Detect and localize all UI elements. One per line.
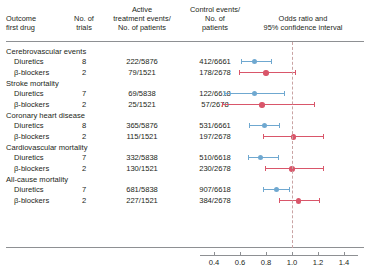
ci-upper-cap bbox=[279, 123, 280, 128]
column-header-active-line1: Active bbox=[100, 5, 184, 14]
forest-plot: Outcome first drug No. of trials Active … bbox=[0, 0, 369, 279]
ci-upper-cap bbox=[289, 187, 290, 192]
row-active-events: 227/1521 bbox=[100, 196, 184, 205]
column-header-trials-line2: trials bbox=[66, 23, 102, 32]
row-trials: 7 bbox=[66, 185, 102, 194]
row-drug: β-blockers bbox=[14, 196, 49, 205]
ci-upper-cap bbox=[323, 166, 324, 171]
row-active-events: 79/1521 bbox=[100, 68, 184, 77]
odds-ratio-marker bbox=[252, 91, 257, 96]
ci-lower-cap bbox=[222, 102, 223, 107]
x-axis-tick bbox=[266, 252, 267, 255]
row-drug: β-blockers bbox=[14, 164, 49, 173]
row-control-events: 384/2678 bbox=[184, 196, 246, 205]
row-drug: β-blockers bbox=[14, 132, 49, 141]
group-label: All-cause mortality bbox=[6, 175, 68, 184]
null-reference-line bbox=[292, 42, 293, 248]
x-axis-tick-label: 1.4 bbox=[333, 258, 355, 267]
row-control-events: 230/2678 bbox=[184, 164, 246, 173]
row-drug: Diuretics bbox=[14, 89, 44, 98]
row-control-events: 178/2678 bbox=[184, 68, 246, 77]
column-header-outcome-line1: Outcome bbox=[6, 14, 66, 23]
column-header-trials-line1: No. of bbox=[66, 14, 102, 23]
x-axis-tick bbox=[344, 252, 345, 255]
row-trials: 7 bbox=[66, 153, 102, 162]
row-drug: Diuretics bbox=[14, 57, 44, 66]
row-active-events: 681/5838 bbox=[100, 185, 184, 194]
group-label: Stroke mortality bbox=[6, 79, 59, 88]
column-header-active: Active treatment events/ No. of patients bbox=[100, 5, 184, 33]
row-drug: β-blockers bbox=[14, 100, 49, 109]
row-active-events: 69/5838 bbox=[100, 89, 184, 98]
x-axis-tick bbox=[214, 252, 215, 255]
row-control-events: 412/6661 bbox=[184, 57, 246, 66]
row-control-events: 510/6618 bbox=[184, 153, 246, 162]
ci-upper-cap bbox=[319, 198, 320, 203]
footer-rule bbox=[6, 247, 364, 248]
ci-lower-cap bbox=[239, 70, 240, 75]
column-header-control-line1: Control events/ bbox=[184, 5, 246, 14]
x-axis-tick-label: 0.6 bbox=[229, 258, 251, 267]
row-trials: 8 bbox=[66, 121, 102, 130]
row-trials: 7 bbox=[66, 89, 102, 98]
ci-lower-cap bbox=[265, 166, 266, 171]
x-axis-tick-label: 0.4 bbox=[203, 258, 225, 267]
ci-lower-cap bbox=[263, 187, 264, 192]
column-header-odds-ratio: Odds ratio and 95% confidence interval bbox=[240, 14, 366, 32]
x-axis-tick bbox=[318, 252, 319, 255]
x-axis-tick-label: 1.2 bbox=[307, 258, 329, 267]
column-header-active-line3: No. of patients bbox=[100, 23, 184, 32]
group-label: Cardiovascular mortality bbox=[6, 143, 87, 152]
odds-ratio-marker bbox=[262, 123, 267, 128]
row-active-events: 115/1521 bbox=[100, 132, 184, 141]
odds-ratio-marker bbox=[252, 59, 257, 64]
x-axis-tick-label: 0.8 bbox=[255, 258, 277, 267]
row-active-events: 222/5876 bbox=[100, 57, 184, 66]
column-header-control-line3: patients bbox=[184, 23, 246, 32]
row-trials: 2 bbox=[66, 196, 102, 205]
ci-lower-cap bbox=[224, 91, 225, 96]
column-header-or-line2: 95% confidence interval bbox=[240, 23, 366, 32]
column-header-or-line1: Odds ratio and bbox=[240, 14, 366, 23]
row-trials: 2 bbox=[66, 164, 102, 173]
column-header-outcome: Outcome first drug bbox=[6, 14, 66, 32]
row-trials: 2 bbox=[66, 68, 102, 77]
header-rule bbox=[6, 41, 364, 42]
ci-lower-cap bbox=[248, 155, 249, 160]
odds-ratio-marker bbox=[258, 155, 263, 160]
odds-ratio-marker bbox=[259, 102, 264, 107]
row-trials: 8 bbox=[66, 57, 102, 66]
row-drug: β-blockers bbox=[14, 68, 49, 77]
row-active-events: 365/5876 bbox=[100, 121, 184, 130]
x-axis-line bbox=[200, 255, 358, 256]
ci-upper-cap bbox=[271, 59, 272, 64]
row-drug: Diuretics bbox=[14, 153, 44, 162]
x-axis-tick-label: 1.0 bbox=[281, 258, 303, 267]
row-drug: Diuretics bbox=[14, 121, 44, 130]
odds-ratio-marker bbox=[274, 187, 279, 192]
column-header-trials: No. of trials bbox=[66, 14, 102, 32]
column-header-active-line2: treatment events/ bbox=[100, 14, 184, 23]
ci-upper-cap bbox=[278, 155, 279, 160]
column-header-control: Control events/ No. of patients bbox=[184, 5, 246, 33]
row-trials: 2 bbox=[66, 100, 102, 109]
confidence-interval-line bbox=[222, 104, 314, 105]
group-label: Cerebrovascular events bbox=[6, 47, 86, 56]
ci-upper-cap bbox=[284, 91, 285, 96]
row-control-events: 531/6661 bbox=[184, 121, 246, 130]
column-header-control-line2: No. of bbox=[184, 14, 246, 23]
odds-ratio-marker bbox=[296, 198, 301, 203]
row-active-events: 332/5838 bbox=[100, 153, 184, 162]
x-axis-tick bbox=[292, 252, 293, 255]
ci-lower-cap bbox=[263, 134, 264, 139]
row-active-events: 25/1521 bbox=[100, 100, 184, 109]
ci-upper-cap bbox=[323, 134, 324, 139]
group-label: Coronary heart disease bbox=[6, 111, 85, 120]
ci-upper-cap bbox=[314, 102, 315, 107]
row-drug: Diuretics bbox=[14, 185, 44, 194]
ci-upper-cap bbox=[295, 70, 296, 75]
ci-lower-cap bbox=[241, 59, 242, 64]
ci-lower-cap bbox=[249, 123, 250, 128]
ci-lower-cap bbox=[279, 198, 280, 203]
row-trials: 2 bbox=[66, 132, 102, 141]
